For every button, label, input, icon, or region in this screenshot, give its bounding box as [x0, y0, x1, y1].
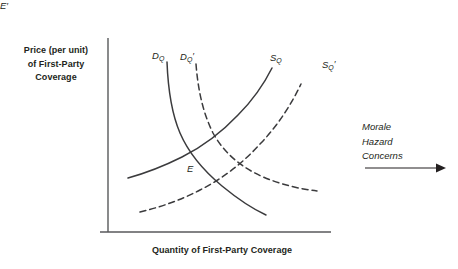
y-axis-label-line2: of First-Party: [8, 58, 104, 72]
demand-curve-dashed: [196, 64, 317, 191]
demand-curve-label-sub: Q: [159, 55, 164, 62]
x-axis-label: Quantity of First-Party Coverage: [110, 245, 334, 255]
equilibrium-shifted-prime: ′: [6, 0, 8, 11]
supply-curve-label: SQ: [270, 52, 282, 64]
supply-shift-label-prime: ′: [334, 58, 336, 69]
equilibrium-label-initial: E: [187, 163, 193, 174]
demand-curve-label: DQ: [152, 50, 164, 62]
annotation-line1: Morale: [362, 120, 442, 135]
equilibrium-label-shifted: E′: [0, 0, 8, 11]
demand-shift-curve-label: DQ′: [180, 50, 194, 63]
demand-shift-label-prime: ′: [192, 50, 194, 61]
supply-curve-solid: [128, 68, 272, 178]
demand-curve-label-base: D: [152, 50, 159, 61]
supply-curve-label-sub: Q: [276, 57, 281, 64]
morale-hazard-arrow: [365, 164, 446, 173]
supply-shift-curve-label: SQ′: [322, 58, 336, 71]
annotation-line2: Hazard: [362, 135, 442, 150]
morale-hazard-annotation: Morale Hazard Concerns: [362, 120, 442, 164]
y-axis-label-line3: Coverage: [8, 71, 104, 85]
y-axis-label: Price (per unit) of First-Party Coverage: [8, 44, 104, 85]
demand-curve-solid: [167, 62, 266, 215]
supply-curve-dashed: [140, 84, 301, 212]
annotation-line3: Concerns: [362, 149, 442, 164]
demand-shift-label-base: D: [180, 51, 187, 62]
supply-demand-figure: Price (per unit) of First-Party Coverage…: [0, 0, 458, 269]
y-axis-label-line1: Price (per unit): [8, 44, 104, 58]
